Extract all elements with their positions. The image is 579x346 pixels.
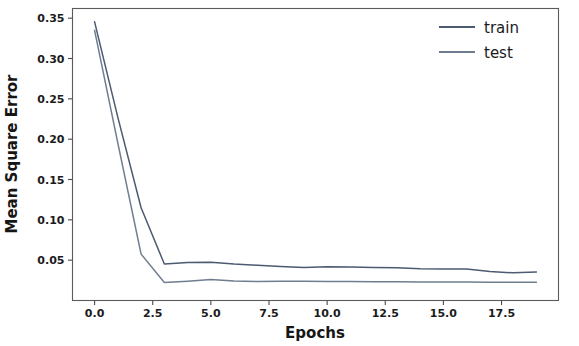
x-tick-label-2: 5.0 — [201, 307, 221, 320]
x-tick-label-1: 2.5 — [143, 307, 163, 320]
x-tick-label-5: 12.5 — [372, 307, 399, 320]
y-axis-title: Mean Square Error — [3, 74, 21, 234]
x-tick-label-7: 17.5 — [488, 307, 515, 320]
y-tick-label-2: 0.15 — [37, 174, 64, 187]
x-tick-label-0: 0.0 — [85, 307, 105, 320]
y-tick-label-0: 0.05 — [37, 254, 64, 267]
legend-label-test: test — [484, 44, 513, 62]
y-tick-label-4: 0.25 — [37, 93, 64, 106]
chart-figure: 0.02.55.07.510.012.515.017.5 0.050.100.1… — [0, 0, 579, 346]
y-tick-label-6: 0.35 — [37, 12, 64, 25]
x-axis-title: Epochs — [285, 324, 345, 342]
x-tick-label-6: 15.0 — [430, 307, 457, 320]
y-tick-label-5: 0.30 — [37, 53, 64, 66]
y-tick-label-1: 0.10 — [37, 214, 64, 227]
legend-label-train: train — [484, 19, 519, 37]
y-tick-label-3: 0.20 — [37, 133, 64, 146]
x-tick-label-3: 7.5 — [259, 307, 279, 320]
x-tick-label-4: 10.0 — [314, 307, 341, 320]
line-chart: 0.02.55.07.510.012.515.017.5 0.050.100.1… — [0, 0, 579, 346]
